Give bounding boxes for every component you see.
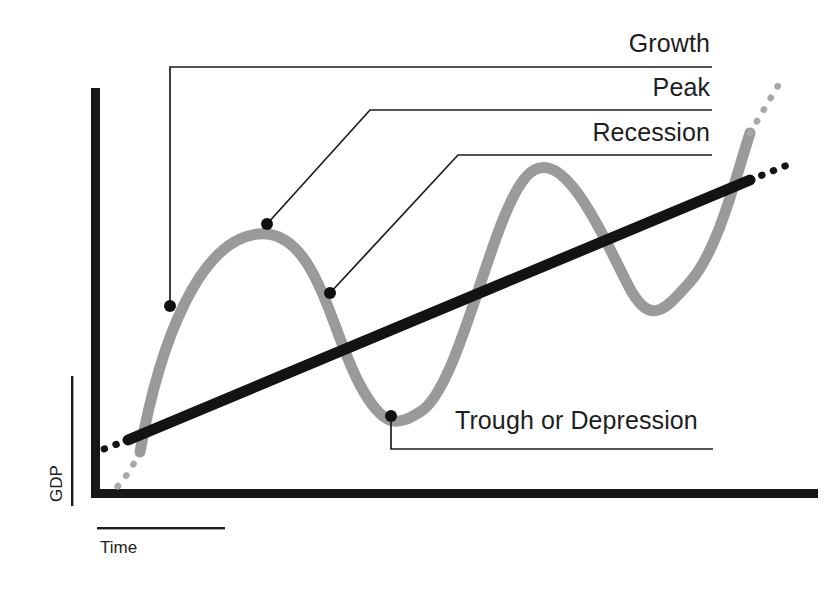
y-axis-label-rule xyxy=(71,376,73,506)
x-axis-line xyxy=(91,489,818,498)
x-axis-label-rule xyxy=(97,527,225,529)
callout-recession-dot xyxy=(324,287,336,299)
axes-group xyxy=(91,88,818,498)
y-axis-label: GDP xyxy=(47,465,66,502)
callout-trough[interactable]: Trough or Depression xyxy=(385,406,713,449)
x-axis-label-group: Time xyxy=(97,527,225,557)
cycle-curve-dotted-start xyxy=(112,452,140,492)
callout-peak-dot xyxy=(261,218,273,230)
y-axis-label-group: GDP xyxy=(47,376,73,506)
callout-trough-dot xyxy=(385,410,397,422)
callout-peak[interactable]: Peak xyxy=(261,73,712,230)
callout-trough-label: Trough or Depression xyxy=(455,406,698,434)
callout-growth[interactable]: Growth xyxy=(164,29,712,312)
callout-growth-label: Growth xyxy=(629,29,710,57)
callout-peak-label: Peak xyxy=(653,73,711,101)
business-cycle-diagram: GDP Time Growth Peak xyxy=(0,0,827,592)
callout-growth-leader xyxy=(170,67,712,306)
cycle-curve-dotted-end xyxy=(750,84,779,133)
cycle-curve-actual-gdp xyxy=(140,133,750,452)
x-axis-label: Time xyxy=(100,538,137,557)
callout-growth-dot xyxy=(164,300,176,312)
y-axis-line xyxy=(91,88,100,498)
callout-recession-label: Recession xyxy=(592,118,710,146)
business-cycle-figure: GDP Time Growth Peak xyxy=(0,0,827,592)
trend-line-dotted-end xyxy=(750,164,790,180)
